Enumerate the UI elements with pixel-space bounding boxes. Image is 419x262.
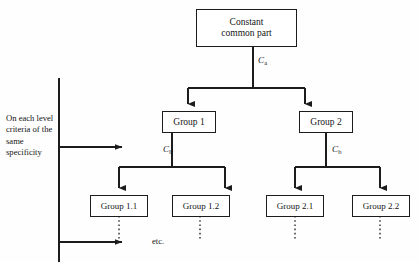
edge-label-cb-right: Cb [332, 144, 341, 154]
diagram-canvas: Constant common part Group 1 Group 2 Gro… [0, 0, 419, 262]
node-constant-common-part: Constant common part [196, 9, 297, 47]
side-caption: On each level criteria of the same speci… [6, 113, 58, 159]
node-root-line2: common part [221, 28, 271, 38]
node-group-1-1-label: Group 1.1 [101, 201, 138, 211]
edge-label-cb-right-sub: b [338, 148, 341, 155]
node-group-2: Group 2 [299, 111, 353, 133]
node-group-2-2: Group 2.2 [352, 195, 410, 217]
node-group-1-2: Group 1.2 [172, 195, 230, 217]
etc-label: etc. [152, 236, 164, 246]
node-group-2-2-label: Group 2.2 [363, 201, 400, 211]
edge-label-cb-left: Cb [163, 144, 172, 154]
node-root-line1: Constant [230, 17, 264, 27]
node-group-2-1-label: Group 2.1 [277, 201, 314, 211]
node-group-1-1: Group 1.1 [90, 195, 148, 217]
node-group-2-1: Group 2.1 [266, 195, 324, 217]
node-group-1-2-label: Group 1.2 [183, 201, 220, 211]
node-group-1-label: Group 1 [173, 117, 204, 128]
node-group-2-label: Group 2 [310, 117, 341, 128]
edge-label-cb-left-sub: b [169, 148, 172, 155]
edge-label-ca-sub: a [264, 59, 267, 66]
edge-label-ca: Ca [258, 55, 267, 65]
node-group-1: Group 1 [162, 111, 216, 133]
